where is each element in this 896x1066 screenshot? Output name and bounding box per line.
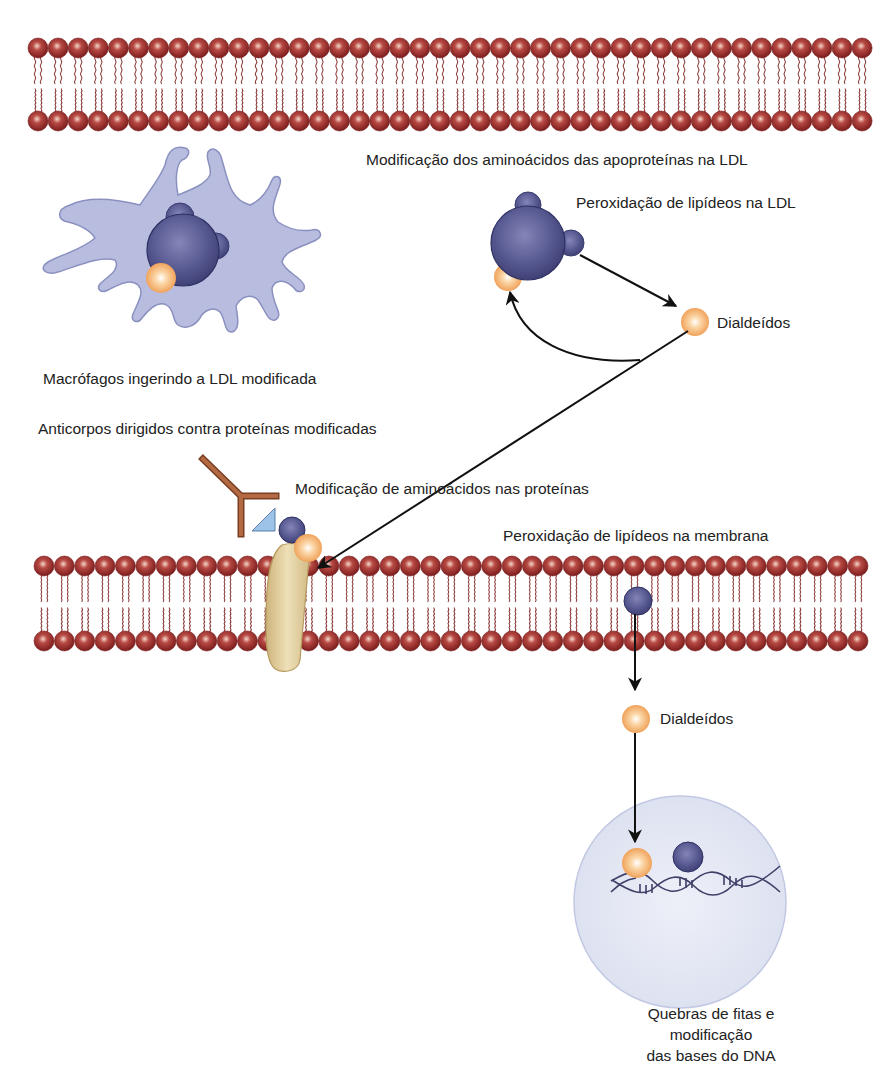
cell-membrane <box>34 556 868 651</box>
arrow-ldl-to-dialdehyde <box>580 255 676 306</box>
label-dna-damage: Quebras de fitas e modificação das bases… <box>619 1003 804 1066</box>
arrow-dialdehyde-to-ldl <box>510 292 640 361</box>
label-macrophage: Macrófagos ingerindo a LDL modificada <box>43 370 316 388</box>
label-membrane-peroxidation: Peroxidação de lipídeos na membrana <box>503 527 768 545</box>
top-membrane <box>28 38 872 131</box>
label-dialdehydes-bottom: Dialdeídos <box>660 710 733 728</box>
label-ldl-peroxidation: Peroxidação de lipídeos na LDL <box>576 194 796 212</box>
label-antibodies: Anticorpos dirigidos contra proteínas mo… <box>38 420 377 438</box>
antibody-icon <box>203 459 276 534</box>
dialdehyde-icon <box>622 705 650 733</box>
nucleus-icon <box>574 796 786 1008</box>
oxidized-lipid-icon <box>624 587 652 615</box>
macrophage-icon <box>43 147 320 332</box>
lipid-bilayers <box>28 38 872 651</box>
label-protein-modification: Modificação de aminoácidos nas proteínas <box>295 480 589 498</box>
label-apoprotein-modification: Modificação dos aminoácidos das apoprote… <box>366 151 748 169</box>
label-dialdehydes-top: Dialdeídos <box>717 314 790 332</box>
ldl-particle-icon <box>491 192 584 291</box>
oxidative-damage-diagram: Modificação dos aminoácidos das apoprote… <box>0 0 896 1066</box>
